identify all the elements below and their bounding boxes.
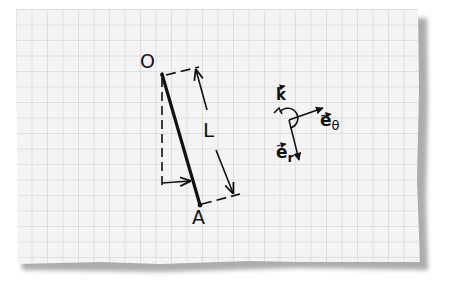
- label-k: k: [276, 88, 286, 103]
- graph-paper-sketch: [0, 0, 454, 290]
- diagram-canvas: O A L k eθ er: [0, 0, 454, 290]
- label-e-r-sub: r: [288, 150, 294, 165]
- label-A: A: [192, 208, 205, 227]
- label-e-theta-sub: θ: [332, 118, 340, 133]
- label-O: O: [140, 52, 155, 71]
- label-e-r: er: [276, 144, 294, 164]
- label-e-theta-base: e: [320, 110, 332, 130]
- label-L: L: [203, 120, 214, 140]
- label-e-r-base: e: [276, 142, 288, 162]
- point-O: [160, 73, 164, 77]
- label-e-theta: eθ: [320, 112, 340, 132]
